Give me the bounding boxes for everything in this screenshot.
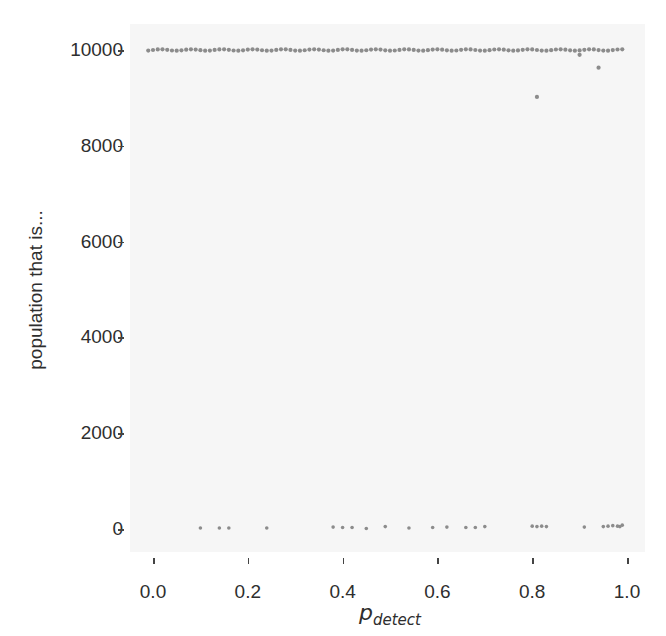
data-point <box>592 47 596 51</box>
data-point <box>227 48 231 52</box>
data-point <box>521 48 525 52</box>
data-point <box>184 48 188 52</box>
data-point <box>620 47 624 51</box>
data-point <box>336 48 340 52</box>
data-point <box>502 48 506 52</box>
data-point <box>378 48 382 52</box>
data-point <box>606 524 610 528</box>
data-point <box>345 47 349 51</box>
data-point <box>365 527 369 531</box>
data-point <box>611 524 615 528</box>
data-point <box>288 48 292 52</box>
data-point <box>350 526 354 530</box>
data-point <box>618 525 622 529</box>
data-point <box>383 525 387 529</box>
data-point <box>246 48 250 52</box>
data-point <box>596 66 600 70</box>
data-point <box>426 48 430 52</box>
data-point <box>213 48 217 52</box>
data-point <box>303 48 307 52</box>
data-point <box>602 525 606 529</box>
data-point <box>440 48 444 52</box>
data-point <box>170 48 174 52</box>
data-point <box>198 48 202 52</box>
data-point <box>199 526 203 530</box>
data-point <box>412 48 416 52</box>
data-point <box>464 47 468 51</box>
data-point <box>383 48 387 52</box>
data-point <box>388 49 392 53</box>
data-point <box>583 525 587 529</box>
scatter-points <box>0 0 666 636</box>
data-point <box>203 49 207 53</box>
data-point <box>255 47 259 51</box>
data-point <box>407 47 411 51</box>
data-point <box>549 48 553 52</box>
data-point <box>189 47 193 51</box>
data-point <box>530 47 534 51</box>
data-point <box>208 48 212 52</box>
data-point <box>151 48 155 52</box>
data-point <box>568 48 572 52</box>
data-point <box>331 48 335 52</box>
data-point <box>450 49 454 53</box>
data-point <box>222 47 226 51</box>
data-point <box>293 48 297 52</box>
data-point <box>156 47 160 51</box>
data-point <box>269 48 273 52</box>
data-point <box>416 48 420 52</box>
data-point <box>478 48 482 52</box>
data-point <box>397 48 401 52</box>
data-point <box>511 49 515 53</box>
data-point <box>445 525 449 529</box>
data-point <box>284 47 288 51</box>
data-point <box>312 47 316 51</box>
data-point <box>326 49 330 53</box>
data-point <box>578 48 582 52</box>
data-point <box>578 53 582 57</box>
data-point <box>364 48 368 52</box>
data-point <box>483 49 487 53</box>
data-point <box>407 526 411 530</box>
data-point <box>540 524 544 528</box>
data-point <box>559 47 563 51</box>
data-point <box>179 48 183 52</box>
data-point <box>317 47 321 51</box>
data-point <box>260 48 264 52</box>
data-point <box>241 48 245 52</box>
data-point <box>535 95 539 99</box>
data-point <box>175 49 179 53</box>
data-point <box>160 47 164 51</box>
data-point <box>535 525 539 529</box>
data-point <box>474 526 478 530</box>
data-point <box>464 526 468 530</box>
data-point <box>525 47 529 51</box>
data-point <box>279 47 283 51</box>
data-point <box>274 48 278 52</box>
data-point <box>606 49 610 53</box>
data-point <box>506 48 510 52</box>
data-point <box>445 48 449 52</box>
data-point <box>545 525 549 529</box>
data-point <box>468 47 472 51</box>
data-point <box>194 47 198 51</box>
data-point <box>341 526 345 530</box>
data-point <box>355 48 359 52</box>
data-point <box>165 48 169 52</box>
data-point <box>218 526 222 530</box>
data-point <box>596 48 600 52</box>
data-point <box>454 48 458 52</box>
data-point <box>298 49 302 53</box>
data-point <box>393 48 397 52</box>
data-point <box>563 48 567 52</box>
data-point <box>587 47 591 51</box>
data-point <box>473 48 477 52</box>
data-point <box>497 47 501 51</box>
data-point <box>231 48 235 52</box>
data-point <box>227 526 231 530</box>
data-point <box>459 48 463 52</box>
data-point <box>573 49 577 53</box>
data-point <box>535 48 539 52</box>
data-point <box>431 47 435 51</box>
data-point <box>544 49 548 53</box>
